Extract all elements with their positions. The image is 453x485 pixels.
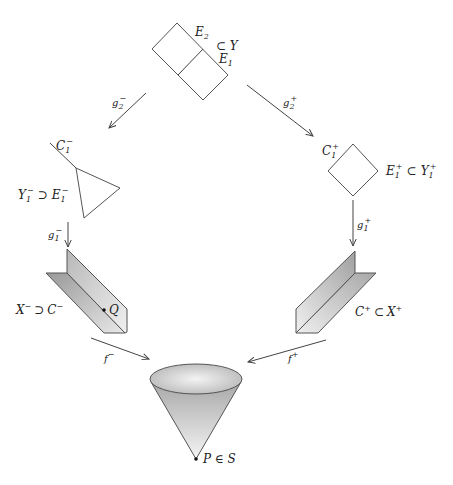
triangle-left-shape [50,143,120,218]
label-g1-plus: g1+ [357,216,371,233]
label-g2-minus: g2− [112,94,126,111]
label-C-subset-X: C+⊂X+ [355,304,402,319]
label-X-supset-C: X−⊃C− [15,302,63,317]
cone-shape [150,364,242,459]
point-P [194,457,198,461]
label-Y1-supset-E1: Y1−⊃E1− [18,186,68,204]
wedge-left-shape [46,249,127,333]
label-E1-subset-Y1: E1+⊂Y1+ [385,162,436,180]
label-C1-plus: C1+ [322,142,339,160]
label-C1-minus: C1− [56,137,73,155]
wedge-right-shape [296,251,376,333]
diagram-canvas: E2 ⊂ Y E1 g2− g2+ C1− Y1−⊃E1− C1+ E1+⊂Y1… [0,0,453,485]
label-f-minus: f− [103,350,114,364]
label-subset-Y: ⊂ Y [216,39,239,53]
label-f-plus: f+ [287,350,298,364]
label-P-in-S: P ∈ S [202,452,236,466]
label-Q: Q [109,303,119,317]
arrow-f-minus [91,338,149,359]
arrow-f-plus [248,340,326,362]
point-Q [102,308,106,312]
label-E2: E2 [194,25,209,41]
arrow-g2-plus [247,85,313,136]
top-square-shape [152,23,228,100]
label-g2-plus: g2+ [283,94,297,111]
label-g1-minus: g1− [48,226,62,243]
label-E1: E1 [218,52,233,68]
